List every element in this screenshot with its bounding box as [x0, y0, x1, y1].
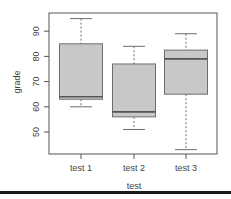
iqr-box [60, 44, 103, 99]
y-tick-label: 70 [31, 77, 41, 87]
y-tick-label: 80 [31, 51, 41, 61]
iqr-box [113, 64, 156, 117]
y-tick-label: 50 [31, 127, 41, 137]
x-tick-label: test 3 [175, 163, 197, 173]
y-tick-label: 60 [31, 102, 41, 112]
x-tick-label: test 2 [123, 163, 145, 173]
bottom-divider [0, 191, 231, 194]
boxplot-chart: 5060708090gradetest 1test 2test 3test [0, 0, 231, 199]
y-axis-label: grade [12, 70, 22, 93]
iqr-box [165, 50, 208, 94]
y-tick-label: 90 [31, 26, 41, 36]
x-tick-label: test 1 [70, 163, 92, 173]
x-axis-label: test [127, 181, 142, 191]
